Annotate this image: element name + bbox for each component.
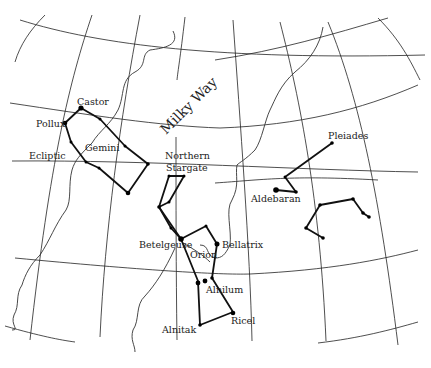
label-pollux: Pollux <box>36 118 66 129</box>
star-alnitak <box>198 323 202 327</box>
star <box>361 211 365 215</box>
star <box>98 167 101 170</box>
stargate-lines <box>159 176 184 207</box>
label-alnitak: Alnitak <box>161 324 197 335</box>
milky-way-south-edge <box>132 248 175 352</box>
label-castor: Castor <box>77 96 109 107</box>
label-ecliptic: Ecliptic <box>29 150 66 161</box>
label-orion: Orion <box>190 249 217 260</box>
ra-line-1 <box>15 15 45 62</box>
ra-line-4a <box>177 17 185 80</box>
milky-way-east-edge <box>200 27 323 258</box>
label-rigel: Ricel <box>231 315 255 326</box>
star <box>168 175 171 178</box>
star <box>85 161 88 164</box>
star-aldebaran <box>273 187 279 193</box>
taurus-body-lines <box>306 199 369 238</box>
label-northern: Northern <box>165 150 210 161</box>
ra-line-2 <box>30 15 92 340</box>
label-stargate: Stargate <box>166 162 208 173</box>
star <box>146 162 150 166</box>
dec-line-6 <box>318 322 418 343</box>
star <box>157 205 161 209</box>
ra-line-6 <box>280 22 326 341</box>
label-alnilam: Alnilum <box>205 284 243 295</box>
dec-line-7 <box>215 178 378 183</box>
star <box>170 227 173 230</box>
ra-line-7 <box>328 22 398 345</box>
label-bellatrix: Bellatrix <box>222 239 264 250</box>
constellation-orion <box>157 205 235 327</box>
label-gemini: Gemini <box>85 142 119 153</box>
star <box>183 175 186 178</box>
star-alnitak-belt <box>196 281 201 286</box>
ra-grid <box>15 15 420 345</box>
label-betelgeuse: Betelgeuse <box>139 239 193 250</box>
star-mintaka <box>210 276 214 280</box>
star <box>321 236 325 240</box>
star <box>99 118 102 121</box>
label-pleiades: Pleiades <box>328 130 368 141</box>
dec-line-2 <box>10 85 418 128</box>
constellation-northern-stargate <box>159 175 186 208</box>
star <box>284 176 287 179</box>
star-map: Milky Way <box>0 0 431 368</box>
ra-line-3 <box>100 15 140 337</box>
star-alnilam <box>203 279 208 284</box>
star <box>304 226 308 230</box>
star-pleiades <box>330 141 334 145</box>
star <box>168 201 171 204</box>
star <box>126 191 131 196</box>
label-aldebaran: Aldebaran <box>250 193 301 204</box>
star-map-svg: Milky Way <box>0 0 431 368</box>
star <box>124 145 127 148</box>
ra-line-8 <box>378 18 420 80</box>
star <box>205 225 208 228</box>
orion-arm <box>159 207 181 239</box>
star <box>318 203 322 207</box>
star-bellatrix <box>215 242 220 247</box>
star <box>351 197 355 201</box>
star <box>367 215 371 219</box>
star <box>70 141 73 144</box>
constellation-taurus <box>273 141 371 240</box>
